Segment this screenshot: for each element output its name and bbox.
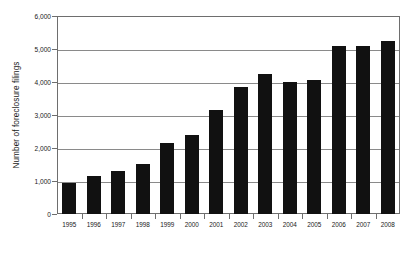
x-axis-tick-mark: [155, 214, 156, 219]
x-axis-tick-mark: [376, 214, 377, 219]
y-axis-tick-label: 3,000: [18, 112, 51, 119]
x-axis-tick-mark: [82, 214, 83, 219]
y-axis-tick-label: 6,000: [18, 13, 51, 20]
y-axis-tick-label: 4,000: [18, 79, 51, 86]
x-axis-tick-labels: 1995199619971998199920002001200220032004…: [57, 221, 400, 235]
bar: [332, 46, 346, 214]
x-axis-tick-label: 2008: [368, 221, 408, 228]
y-axis-tick-labels: 01,0002,0003,0004,0005,0006,000: [18, 0, 51, 258]
x-axis-tick-mark: [327, 214, 328, 219]
x-axis-tick-marks: [57, 214, 400, 219]
bar: [381, 41, 395, 214]
bar: [111, 171, 125, 214]
y-axis-tick-label: 5,000: [18, 46, 51, 53]
x-axis-tick-mark: [278, 214, 279, 219]
bar-chart: Number of foreclosure filings 01,0002,00…: [0, 0, 416, 258]
bar: [209, 110, 223, 214]
x-axis-tick-mark: [302, 214, 303, 219]
x-axis-tick-mark: [204, 214, 205, 219]
bar: [234, 87, 248, 214]
bar: [283, 82, 297, 214]
bar: [160, 143, 174, 214]
y-axis-tick-label: 2,000: [18, 145, 51, 152]
bars-container: [57, 16, 400, 214]
x-axis-tick-mark: [253, 214, 254, 219]
bar: [185, 135, 199, 214]
x-axis-tick-mark: [351, 214, 352, 219]
x-axis-tick-mark: [131, 214, 132, 219]
bar: [136, 164, 150, 214]
bar: [356, 46, 370, 214]
x-axis-tick-mark: [106, 214, 107, 219]
bar: [307, 80, 321, 214]
bar: [62, 183, 76, 214]
bar: [258, 74, 272, 214]
x-axis-tick-mark: [180, 214, 181, 219]
bar: [87, 176, 101, 214]
x-axis-tick-mark: [229, 214, 230, 219]
y-axis-tick-label: 0: [18, 211, 51, 218]
y-axis-tick-label: 1,000: [18, 178, 51, 185]
